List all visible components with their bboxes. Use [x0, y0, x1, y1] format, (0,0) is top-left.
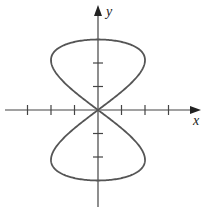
x-axis-label: x — [192, 113, 200, 128]
figure-eight-plot: x y — [0, 0, 202, 209]
y-axis-arrow-icon — [94, 5, 102, 16]
y-axis-label: y — [104, 4, 113, 19]
